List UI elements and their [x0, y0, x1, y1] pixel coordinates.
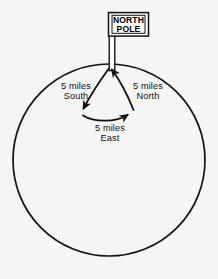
diagram-canvas: NORTH POLE 5 miles South 5 miles North 5… [0, 0, 218, 279]
leg-label-east-distance: 5 miles [86, 123, 134, 133]
leg-label-south: 5 miles South [52, 81, 100, 101]
leg-label-south-direction: South [52, 91, 100, 101]
leg-label-south-distance: 5 miles [52, 81, 100, 91]
leg-label-east: 5 miles East [86, 123, 134, 143]
flag-label-line2: POLE [112, 25, 145, 34]
leg-label-east-direction: East [86, 133, 134, 143]
leg-label-north-direction: North [124, 91, 172, 101]
leg-label-north: 5 miles North [124, 81, 172, 101]
leg-label-north-distance: 5 miles [124, 81, 172, 91]
earth-circle [13, 64, 205, 256]
flag-label: NORTH POLE [112, 16, 145, 35]
leg-arrow-east [83, 115, 128, 121]
